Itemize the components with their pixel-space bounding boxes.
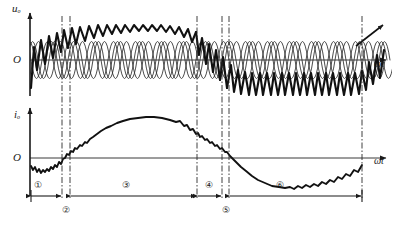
- current-origin-label: O: [13, 151, 21, 163]
- voltage-x-axis-label: ωt: [374, 58, 384, 69]
- current-axis-label: io: [14, 108, 20, 120]
- waveform-figure: uo io O O ωt ωt ① ② ③ ④ ⑤ ⑥: [0, 0, 399, 228]
- region-label-4: ④: [201, 180, 217, 190]
- region-label-1: ①: [30, 180, 46, 190]
- region-label-3: ③: [118, 180, 134, 190]
- current-axis-subscript: o: [17, 114, 20, 120]
- output-current-trace: [31, 117, 362, 189]
- voltage-axis-subscript: o: [18, 8, 21, 14]
- voltage-origin-label: O: [13, 53, 21, 65]
- current-x-axis-label: ωt: [374, 155, 384, 166]
- region-label-2: ②: [58, 205, 74, 215]
- waveform-canvas: [0, 0, 399, 228]
- region-label-5: ⑤: [218, 205, 234, 215]
- voltage-axis-label: uo: [12, 2, 21, 14]
- region-span-arrows: [31, 190, 362, 202]
- region-label-6: ⑥: [272, 180, 288, 190]
